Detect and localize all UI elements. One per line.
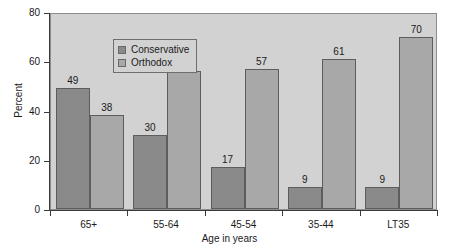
x-tick-label-45-54: 45-54 bbox=[204, 219, 284, 230]
legend-entry-orthodox: Orthodox bbox=[118, 56, 189, 69]
bar-conservative-LT35 bbox=[365, 187, 399, 209]
bar-orthodox-65+ bbox=[90, 115, 124, 209]
bar-conservative-45-54 bbox=[211, 167, 245, 209]
bar-conservative-35-44 bbox=[288, 187, 322, 209]
x-tick-mark bbox=[282, 211, 283, 216]
x-tick-label-LT35: LT35 bbox=[358, 219, 438, 230]
y-tick-mark bbox=[44, 13, 49, 14]
bar-value-label: 38 bbox=[84, 102, 130, 113]
y-tick-mark bbox=[44, 210, 49, 211]
plot-area: 493830561757961970 Conservative Orthodox bbox=[50, 13, 437, 210]
y-tick-mark bbox=[44, 112, 49, 113]
y-axis-line bbox=[49, 13, 50, 211]
bar-conservative-55-64 bbox=[133, 135, 167, 209]
x-tick-mark bbox=[127, 211, 128, 216]
x-tick-label-65+: 65+ bbox=[49, 219, 129, 230]
x-tick-mark bbox=[205, 211, 206, 216]
y-tick-mark bbox=[44, 161, 49, 162]
bar-value-label: 70 bbox=[393, 24, 439, 35]
legend-label-orthodox: Orthodox bbox=[131, 57, 172, 68]
chart-legend: Conservative Orthodox bbox=[113, 39, 197, 73]
legend-swatch-conservative bbox=[118, 46, 126, 54]
x-tick-mark bbox=[50, 211, 51, 216]
bar-orthodox-55-64 bbox=[167, 71, 201, 209]
x-tick-label-35-44: 35-44 bbox=[281, 219, 361, 230]
bar-value-label: 61 bbox=[316, 46, 362, 57]
x-tick-mark bbox=[437, 211, 438, 216]
y-tick-label: 0 bbox=[14, 204, 40, 215]
y-tick-label: 80 bbox=[14, 7, 40, 18]
legend-swatch-orthodox bbox=[118, 59, 126, 67]
bar-chart-figure: 493830561757961970 Conservative Orthodox… bbox=[0, 0, 459, 249]
y-tick-label: 20 bbox=[14, 155, 40, 166]
bar-orthodox-45-54 bbox=[245, 69, 279, 209]
x-tick-mark bbox=[360, 211, 361, 216]
x-axis-title: Age in years bbox=[0, 233, 459, 244]
y-tick-mark bbox=[44, 62, 49, 63]
bar-value-label: 49 bbox=[50, 75, 96, 86]
legend-entry-conservative: Conservative bbox=[118, 43, 189, 56]
bar-orthodox-35-44 bbox=[322, 59, 356, 209]
bars-layer: 493830561757961970 bbox=[51, 14, 436, 209]
x-axis-line bbox=[49, 210, 438, 211]
bar-orthodox-LT35 bbox=[399, 37, 433, 209]
y-axis-title: Percent bbox=[13, 66, 24, 136]
legend-label-conservative: Conservative bbox=[131, 44, 189, 55]
bar-value-label: 57 bbox=[239, 56, 285, 67]
x-tick-label-55-64: 55-64 bbox=[126, 219, 206, 230]
